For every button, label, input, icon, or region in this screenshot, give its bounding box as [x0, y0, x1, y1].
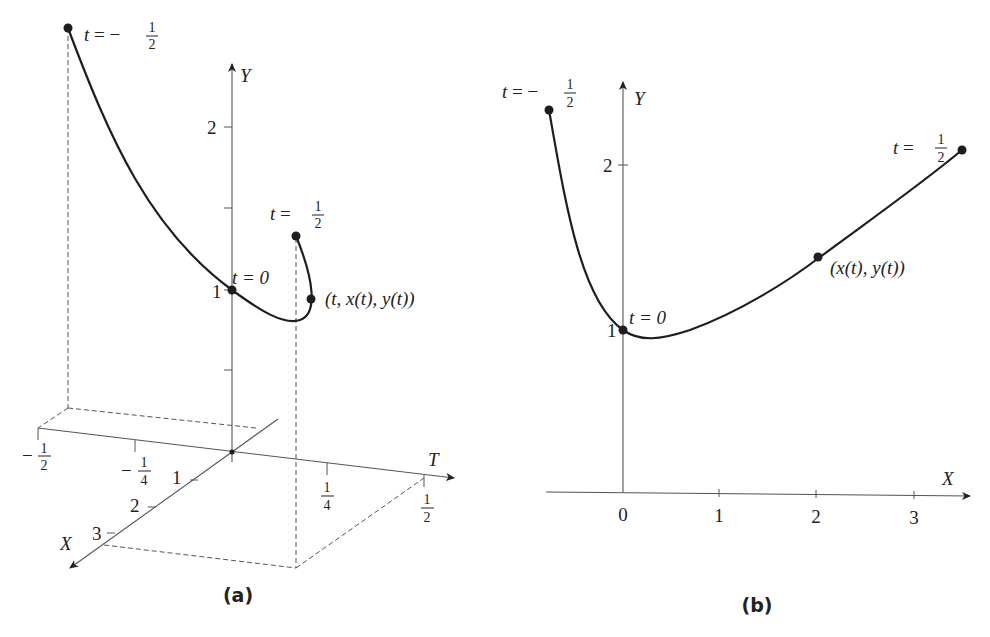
- point-b-start: [545, 106, 554, 115]
- svg-text:1: 1: [324, 480, 331, 495]
- x-tick-label-b-0: 0: [618, 504, 628, 525]
- y-axis-label: Y: [240, 65, 253, 86]
- projection-dash-floor-left: [38, 408, 68, 428]
- svg-text:2: 2: [315, 216, 322, 231]
- svg-text:t = −: t = −: [502, 81, 538, 102]
- x-axis-back: [232, 419, 278, 452]
- svg-text:4: 4: [141, 473, 148, 488]
- x-tick-label-1: 1: [172, 467, 182, 488]
- point-start: [64, 24, 73, 33]
- svg-text:2: 2: [567, 95, 574, 110]
- label-start: t = − 1 2: [84, 20, 158, 52]
- figure: Y 2 1 T − 1 2 − 1 4 1 4: [0, 0, 990, 637]
- svg-text:t =: t =: [270, 203, 291, 224]
- svg-text:−: −: [121, 460, 132, 481]
- projection-dash-floor-diag: [296, 478, 424, 568]
- y-tick-label-1: 1: [212, 281, 222, 302]
- panel-a: Y 2 1 T − 1 2 − 1 4 1 4: [22, 20, 454, 606]
- point-b-general: [814, 253, 823, 262]
- y-axis-label-b: Y: [634, 88, 647, 109]
- x-axis-label-b: X: [941, 468, 955, 489]
- origin-dot: [230, 450, 235, 455]
- x-tick-label-b-1: 1: [714, 505, 724, 526]
- label-point: (t, x(t), y(t)): [325, 288, 415, 310]
- point-general: [307, 295, 316, 304]
- t-tick-label-neg-quarter: − 1 4: [121, 455, 151, 488]
- label-t0: t = 0: [232, 267, 270, 288]
- y-tick-label-b-2: 2: [603, 155, 613, 176]
- caption-b: (b): [742, 594, 773, 616]
- panel-b: Y 2 1 X 0 1 2 3 t = − 1 2 t = 0 t = 1: [502, 77, 970, 616]
- x-tick-label-3: 3: [92, 523, 102, 544]
- point-b-t0: [619, 326, 628, 335]
- label-b-start: t = − 1 2: [502, 77, 576, 110]
- svg-text:2: 2: [424, 510, 431, 525]
- svg-text:1: 1: [567, 77, 574, 92]
- t-tick-label-quarter: 1 4: [321, 480, 334, 513]
- caption-a: (a): [223, 584, 253, 606]
- svg-text:1: 1: [41, 441, 48, 456]
- projection-dash-floor-back: [68, 408, 256, 428]
- svg-text:2: 2: [938, 150, 945, 165]
- point-end: [292, 232, 301, 241]
- x-tick-label-b-2: 2: [811, 506, 821, 527]
- x-axis-label: X: [59, 533, 73, 554]
- svg-text:1: 1: [149, 20, 156, 35]
- projection-dash-floor-front: [104, 545, 296, 568]
- t-tick-label-half: 1 2: [421, 492, 434, 525]
- x-tick-label-b-3: 3: [909, 507, 919, 528]
- label-b-point: (x(t), y(t)): [830, 257, 905, 279]
- svg-text:2: 2: [149, 37, 156, 52]
- svg-text:t = −: t = −: [84, 24, 120, 45]
- x-tick-label-2: 2: [130, 495, 140, 516]
- x-axis: [70, 452, 232, 568]
- t-axis: [38, 428, 454, 478]
- label-end: t = 1 2: [270, 199, 324, 231]
- svg-text:1: 1: [141, 455, 148, 470]
- point-b-end: [958, 146, 967, 155]
- label-b-t0: t = 0: [629, 307, 667, 328]
- space-curve: [68, 28, 312, 321]
- label-b-end: t = 1 2: [893, 132, 947, 165]
- svg-text:t =: t =: [893, 137, 914, 158]
- svg-text:1: 1: [938, 132, 945, 147]
- svg-text:1: 1: [315, 199, 322, 214]
- y-tick-label-2: 2: [207, 117, 217, 138]
- x-axis-b: [546, 492, 970, 496]
- t-tick-label-neg-half: − 1 2: [22, 441, 51, 473]
- svg-text:4: 4: [324, 498, 331, 513]
- svg-text:2: 2: [41, 458, 48, 473]
- svg-text:−: −: [22, 445, 33, 466]
- svg-text:1: 1: [424, 492, 431, 507]
- t-axis-label: T: [428, 449, 440, 470]
